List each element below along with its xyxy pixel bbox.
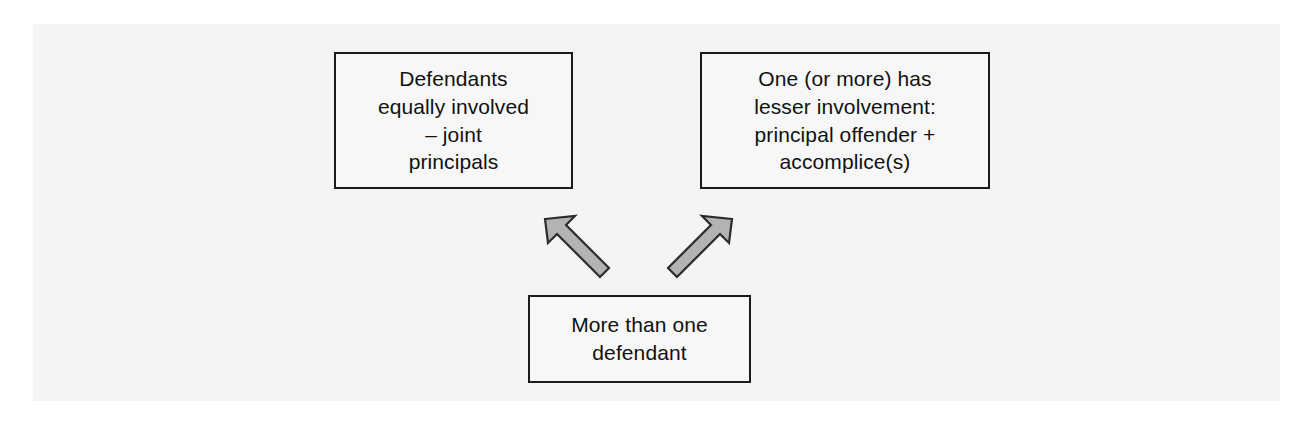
node-more-than-one-defendant[interactable]: More than one defendant bbox=[528, 295, 751, 383]
node-more-than-one-defendant-label: More than one defendant bbox=[565, 311, 714, 366]
arrow-to-joint-principals-shape bbox=[545, 216, 609, 277]
node-lesser-involvement[interactable]: One (or more) has lesser involvement: pr… bbox=[700, 52, 990, 189]
node-joint-principals[interactable]: Defendants equally involved – joint prin… bbox=[334, 52, 573, 189]
diagram-canvas: Defendants equally involved – joint prin… bbox=[0, 0, 1309, 432]
arrow-up-left-icon bbox=[536, 205, 622, 291]
arrow-up-right-icon bbox=[655, 205, 741, 291]
arrow-to-lesser-involvement-shape bbox=[668, 216, 732, 277]
node-lesser-involvement-label: One (or more) has lesser involvement: pr… bbox=[748, 65, 942, 176]
node-joint-principals-label: Defendants equally involved – joint prin… bbox=[372, 65, 535, 176]
